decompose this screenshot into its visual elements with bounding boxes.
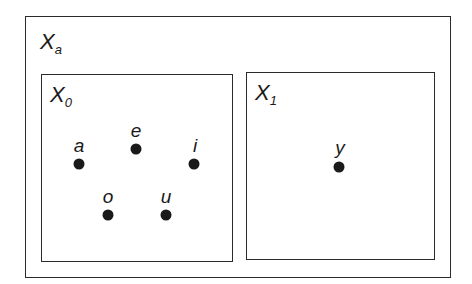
point-label-o: o xyxy=(103,187,114,206)
point-dot-e xyxy=(131,144,142,155)
point-label-u: u xyxy=(161,187,172,206)
subset-x0-subscript: 0 xyxy=(65,95,72,110)
point-dot-y xyxy=(334,162,345,173)
point-label-y: y xyxy=(335,138,345,157)
point-label-i: i xyxy=(193,136,197,155)
subset-x1-label: X1 xyxy=(255,82,277,107)
point-label-e: e xyxy=(131,121,142,140)
point-dot-u xyxy=(161,210,172,221)
outer-set-subscript: a xyxy=(55,42,62,57)
point-dot-o xyxy=(103,210,114,221)
outer-set-name: X xyxy=(40,29,55,54)
point-dot-i xyxy=(189,159,200,170)
subset-x0-label: X0 xyxy=(50,84,72,109)
point-dot-a xyxy=(74,159,85,170)
outer-set-label: Xa xyxy=(40,31,62,56)
subset-x0-name: X xyxy=(50,82,65,107)
subset-x1-subscript: 1 xyxy=(270,93,277,108)
subset-x1-name: X xyxy=(255,80,270,105)
point-label-a: a xyxy=(74,136,85,155)
